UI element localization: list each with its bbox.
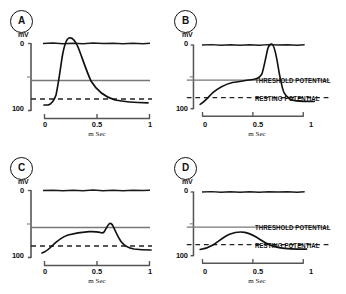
x-tick-label-05-c: 0.5	[88, 267, 106, 276]
x-tick-label-0-a: 0	[38, 120, 52, 129]
action-potential-figure: A mV 0 100 0 0.5 1 m Sec	[0, 0, 346, 294]
x-tick-label-0-d: 0	[198, 267, 212, 276]
panel-c: C mV 0 100 0 0.5 1 m Sec	[0, 147, 173, 294]
x-tick-label-1-d: 1	[304, 267, 318, 276]
zero-noise-trace-b	[202, 45, 305, 46]
x-tick-label-05-d: 0.5	[249, 267, 267, 276]
x-tick-label-1-a: 1	[143, 120, 157, 129]
resting-potential-label-d: RESTING POTENTIAL	[255, 242, 320, 249]
panel-a: A mV 0 100 0 0.5 1 m Sec	[0, 0, 173, 147]
x-tick-label-0-c: 0	[38, 267, 52, 276]
panel-b: B mV 0 100 0 0.5 1 m Sec THRESHOLD POTEN…	[164, 0, 337, 147]
x-tick-label-1-b: 1	[304, 120, 318, 129]
x-axis-title-a: m Sec	[74, 130, 120, 138]
x-tick-label-0-b: 0	[198, 120, 212, 129]
x-axis-title-c: m Sec	[74, 277, 120, 285]
x-tick-label-05-a: 0.5	[88, 120, 106, 129]
x-axis-title-b: m Sec	[234, 130, 280, 138]
panel-d: D mV 0 100 0 0.5 1 m Sec THRESHOLD POTEN…	[164, 147, 337, 294]
membrane-potential-trace-a	[44, 38, 148, 105]
x-tick-label-1-c: 1	[143, 267, 157, 276]
zero-noise-trace-c	[43, 190, 150, 191]
zero-noise-trace-a	[43, 43, 150, 44]
x-tick-label-05-b: 0.5	[249, 120, 267, 129]
threshold-potential-label-b: THRESHOLD POTENTIAL	[255, 77, 331, 84]
threshold-potential-label-d: THRESHOLD POTENTIAL	[255, 224, 331, 231]
x-axis-title-d: m Sec	[234, 277, 280, 285]
resting-potential-label-b: RESTING POTENTIAL	[255, 95, 320, 102]
zero-noise-trace-d	[202, 192, 305, 193]
